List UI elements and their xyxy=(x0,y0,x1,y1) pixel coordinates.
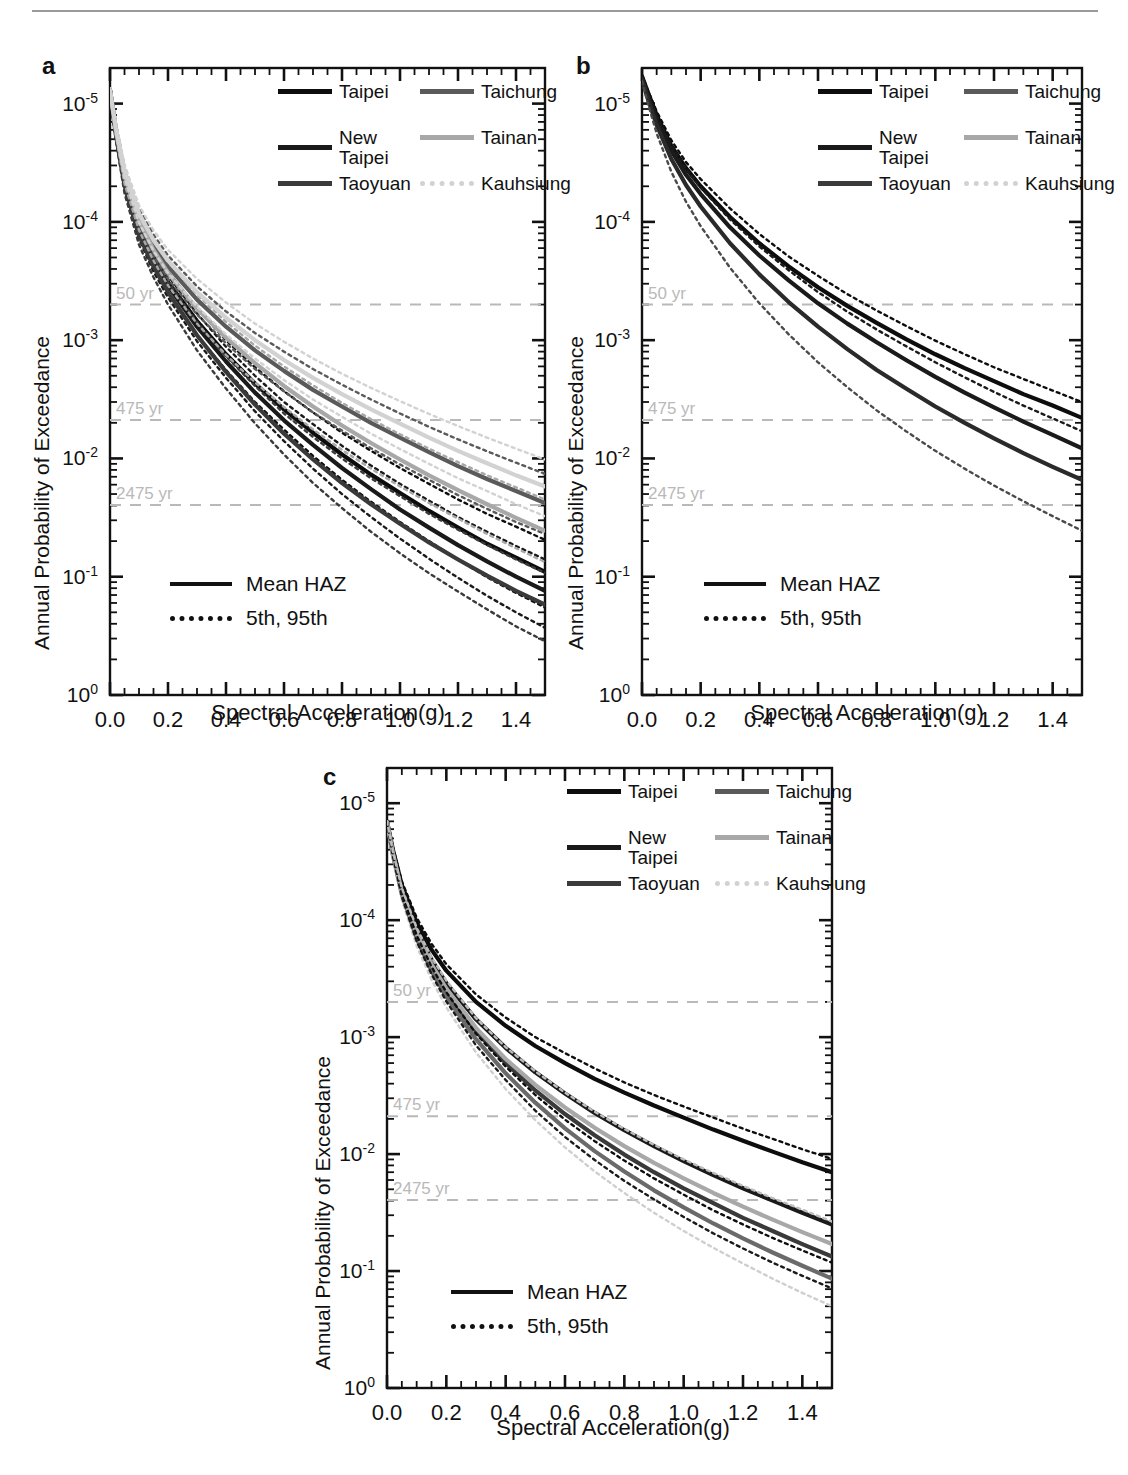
svg-text:10-5: 10-5 xyxy=(62,90,98,115)
panel-b-letter: b xyxy=(576,52,591,80)
panel-a: a Annual Probability of Exceedance Spect… xyxy=(0,20,560,740)
legend-item-new-taipei[interactable]: New Taipei xyxy=(278,128,389,168)
svg-text:10-2: 10-2 xyxy=(339,1140,375,1165)
svg-text:10-3: 10-3 xyxy=(62,326,98,351)
svg-text:50 yr: 50 yr xyxy=(648,284,686,303)
legend-swatch-icon xyxy=(964,135,1018,140)
legend-label: Taichung xyxy=(776,782,852,802)
band-legend-label: Mean HAZ xyxy=(527,1280,627,1304)
panel-b: b Annual Probability of Exceedance Spect… xyxy=(530,20,1110,740)
legend-label: Tainan xyxy=(776,828,832,848)
svg-text:10-1: 10-1 xyxy=(339,1257,375,1282)
band-legend-item-mean-haz[interactable]: Mean HAZ xyxy=(704,572,880,596)
band-legend-item-5th-95th[interactable]: 5th, 95th xyxy=(170,606,328,630)
legend-label: Taoyuan xyxy=(628,874,700,894)
legend-swatch-icon xyxy=(715,881,769,886)
svg-text:10-4: 10-4 xyxy=(62,208,98,233)
legend-swatch-icon xyxy=(420,181,474,186)
legend-label: Taichung xyxy=(1025,82,1101,102)
band-swatch-icon xyxy=(451,1324,513,1329)
legend-item-tainan[interactable]: Tainan xyxy=(715,828,832,848)
svg-text:10-3: 10-3 xyxy=(339,1023,375,1048)
band-swatch-icon xyxy=(170,582,232,586)
svg-text:10-2: 10-2 xyxy=(62,444,98,469)
svg-text:50 yr: 50 yr xyxy=(393,981,431,1000)
legend-swatch-icon xyxy=(818,145,872,150)
svg-text:50 yr: 50 yr xyxy=(116,284,154,303)
legend-label: New Taipei xyxy=(879,128,929,168)
legend-item-kauhsiung[interactable]: Kauhsiung xyxy=(964,174,1115,194)
band-legend-label: 5th, 95th xyxy=(780,606,862,630)
svg-text:2475 yr: 2475 yr xyxy=(648,484,705,503)
legend-item-new-taipei[interactable]: New Taipei xyxy=(567,828,678,868)
band-legend-item-mean-haz[interactable]: Mean HAZ xyxy=(170,572,346,596)
legend-swatch-icon xyxy=(567,789,621,794)
panel-b-xlabel: Spectral Acceleration(g) xyxy=(644,700,1090,726)
legend-label: New Taipei xyxy=(339,128,389,168)
legend-item-taipei[interactable]: Taipei xyxy=(278,82,389,102)
legend-swatch-icon xyxy=(420,135,474,140)
band-legend-label: Mean HAZ xyxy=(780,572,880,596)
legend-label: Kauhsiung xyxy=(776,874,866,894)
band-legend-label: 5th, 95th xyxy=(246,606,328,630)
legend-label: Taoyuan xyxy=(339,174,411,194)
band-swatch-icon xyxy=(451,1290,513,1294)
svg-text:2475 yr: 2475 yr xyxy=(393,1179,450,1198)
panel-c-xlabel: Spectral Acceleration(g) xyxy=(387,1415,839,1441)
svg-text:10-4: 10-4 xyxy=(339,906,375,931)
legend-label: New Taipei xyxy=(628,828,678,868)
panel-c: c Annual Probability of Exceedance Spect… xyxy=(275,750,865,1475)
legend-label: Tainan xyxy=(481,128,537,148)
legend-item-taoyuan[interactable]: Taoyuan xyxy=(818,174,951,194)
legend-item-taipei[interactable]: Taipei xyxy=(818,82,929,102)
legend-label: Taoyuan xyxy=(879,174,951,194)
legend-label: Kauhsiung xyxy=(1025,174,1115,194)
legend-swatch-icon xyxy=(278,89,332,94)
legend-item-taoyuan[interactable]: Taoyuan xyxy=(567,874,700,894)
svg-text:2475 yr: 2475 yr xyxy=(116,484,173,503)
svg-text:10-1: 10-1 xyxy=(62,563,98,588)
figure-page: a Annual Probability of Exceedance Spect… xyxy=(0,0,1128,1475)
legend-label: Taipei xyxy=(339,82,389,102)
legend-label: Tainan xyxy=(1025,128,1081,148)
band-legend-item-5th-95th[interactable]: 5th, 95th xyxy=(704,606,862,630)
legend-swatch-icon xyxy=(818,181,872,186)
band-legend-item-mean-haz[interactable]: Mean HAZ xyxy=(451,1280,627,1304)
legend-item-tainan[interactable]: Tainan xyxy=(964,128,1081,148)
panel-a-letter: a xyxy=(42,52,55,80)
svg-text:10-4: 10-4 xyxy=(594,208,630,233)
legend-label: Taipei xyxy=(628,782,678,802)
svg-text:475 yr: 475 yr xyxy=(648,399,696,418)
legend-item-tainan[interactable]: Tainan xyxy=(420,128,537,148)
legend-item-kauhsiung[interactable]: Kauhsiung xyxy=(715,874,866,894)
band-legend-label: Mean HAZ xyxy=(246,572,346,596)
panel-a-ylabel: Annual Probability of Exceedance xyxy=(30,336,54,650)
band-swatch-icon xyxy=(704,582,766,586)
panel-a-xlabel: Spectral Acceleration(g) xyxy=(110,700,546,726)
legend-swatch-icon xyxy=(715,789,769,794)
legend-swatch-icon xyxy=(818,89,872,94)
band-legend-label: 5th, 95th xyxy=(527,1314,609,1338)
legend-swatch-icon xyxy=(964,89,1018,94)
legend-swatch-icon xyxy=(278,145,332,150)
svg-text:100: 100 xyxy=(344,1374,375,1399)
panel-c-letter: c xyxy=(323,763,336,791)
legend-item-taichung[interactable]: Taichung xyxy=(715,782,852,802)
legend-item-taoyuan[interactable]: Taoyuan xyxy=(278,174,411,194)
svg-text:10-5: 10-5 xyxy=(339,789,375,814)
svg-text:100: 100 xyxy=(67,681,98,706)
svg-text:475 yr: 475 yr xyxy=(393,1095,441,1114)
band-swatch-icon xyxy=(170,616,232,621)
legend-item-taipei[interactable]: Taipei xyxy=(567,782,678,802)
page-top-rule xyxy=(32,10,1098,12)
band-legend-item-5th-95th[interactable]: 5th, 95th xyxy=(451,1314,609,1338)
svg-text:475 yr: 475 yr xyxy=(116,399,164,418)
legend-swatch-icon xyxy=(964,181,1018,186)
legend-item-taichung[interactable]: Taichung xyxy=(964,82,1101,102)
legend-swatch-icon xyxy=(567,845,621,850)
legend-item-new-taipei[interactable]: New Taipei xyxy=(818,128,929,168)
svg-text:100: 100 xyxy=(599,681,630,706)
legend-swatch-icon xyxy=(278,181,332,186)
band-swatch-icon xyxy=(704,616,766,621)
svg-text:10-3: 10-3 xyxy=(594,326,630,351)
